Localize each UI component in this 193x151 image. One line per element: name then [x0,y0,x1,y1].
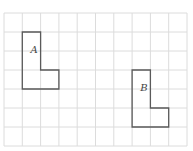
l-shape-grid-diagram: A B [0,0,193,151]
square-grid [4,13,187,146]
shape-b-label: B [139,82,147,93]
shape-a-label: A [30,44,38,55]
